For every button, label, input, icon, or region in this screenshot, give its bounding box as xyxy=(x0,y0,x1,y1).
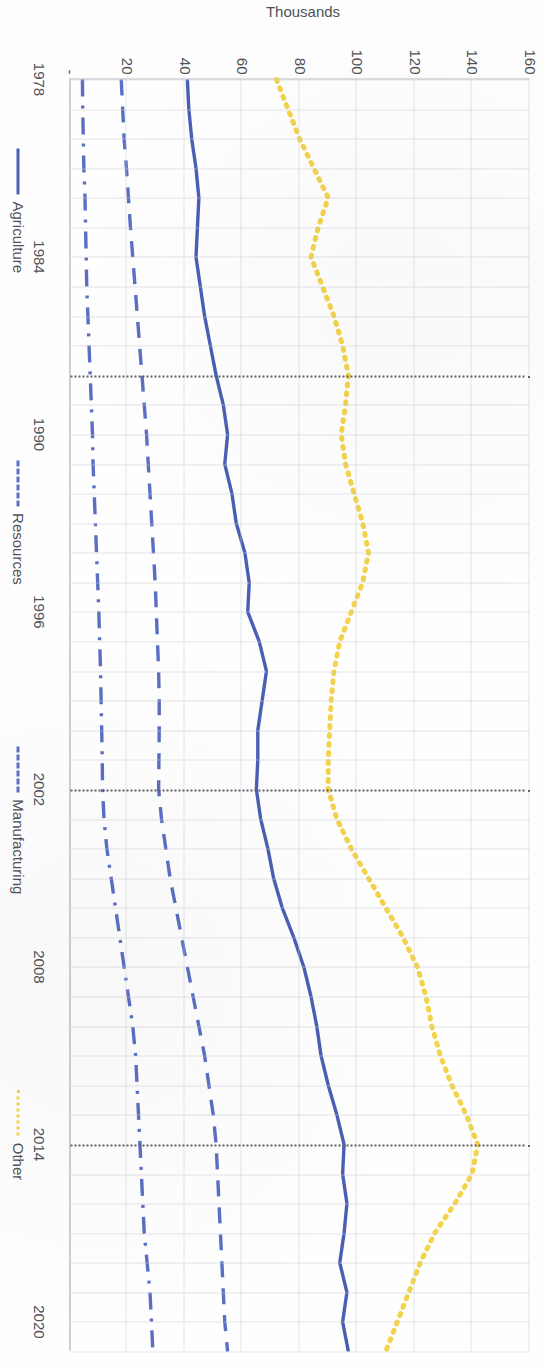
legend-item-resources[interactable]: Resources xyxy=(10,460,27,585)
x-axis-tick-label: 1984 xyxy=(30,234,47,278)
value-gridline xyxy=(126,79,127,1350)
year-gridline xyxy=(70,552,529,553)
series-line-other xyxy=(276,79,477,1351)
legend-item-label: Other xyxy=(10,1142,27,1180)
dashed-line-swatch xyxy=(17,746,20,792)
value-gridline xyxy=(413,79,414,1350)
value-gridline xyxy=(471,79,472,1350)
year-gridline-major xyxy=(70,1144,529,1146)
year-gridline xyxy=(70,1262,529,1263)
legend-item-label: Resources xyxy=(10,513,27,585)
value-gridline xyxy=(356,79,357,1350)
x-axis-tick-label: 1996 xyxy=(30,589,47,633)
series-line-manufacturing xyxy=(121,79,227,1351)
year-gridline xyxy=(70,996,529,997)
year-gridline xyxy=(70,345,529,346)
year-gridline xyxy=(70,316,529,317)
year-gridline xyxy=(70,1114,529,1115)
y-axis-tick-label: 20 xyxy=(119,14,136,74)
x-axis-tick-label: 2002 xyxy=(30,767,47,811)
year-gridline xyxy=(70,227,529,228)
year-gridline xyxy=(70,700,529,701)
year-gridline xyxy=(70,1233,529,1234)
year-gridline xyxy=(70,1174,529,1175)
x-axis-tick-label: 2008 xyxy=(30,944,47,988)
year-gridline xyxy=(70,582,529,583)
year-gridline xyxy=(70,907,529,908)
year-gridline xyxy=(70,1351,529,1352)
year-gridline xyxy=(70,1055,529,1056)
dashdot-line-swatch xyxy=(17,460,20,506)
year-gridline xyxy=(70,493,529,494)
series-line-resources xyxy=(82,79,152,1351)
year-gridline xyxy=(70,138,529,139)
y-axis-tick-label: 160 xyxy=(521,14,538,74)
y-axis-tick-label: 60 xyxy=(234,14,251,74)
year-gridline xyxy=(70,79,529,80)
y-axis-tick-label: 120 xyxy=(406,14,423,74)
solid-line-swatch xyxy=(17,148,20,194)
line-chart: Thousands -20406080100120140160197819841… xyxy=(0,0,543,1368)
rotated-chart-wrapper: Thousands -20406080100120140160197819841… xyxy=(0,0,543,1368)
legend-item-agriculture[interactable]: Agriculture xyxy=(10,148,27,273)
year-gridline xyxy=(70,878,529,879)
legend-item-label: Manufacturing xyxy=(10,799,27,894)
value-gridline xyxy=(241,79,242,1350)
year-gridline xyxy=(70,1026,529,1027)
x-axis-tick-label: 2020 xyxy=(30,1299,47,1343)
year-gridline xyxy=(70,464,529,465)
x-axis-tick-label: 1978 xyxy=(30,57,47,101)
value-gridline xyxy=(183,79,184,1350)
year-gridline xyxy=(70,197,529,198)
dotted-line-swatch xyxy=(17,1089,20,1135)
year-gridline xyxy=(70,1292,529,1293)
value-gridline xyxy=(528,79,529,1350)
chart-legend: AgricultureResourcesManufacturingOther xyxy=(5,78,31,1350)
year-gridline-major xyxy=(70,789,529,791)
y-axis-tick-label: - xyxy=(61,14,78,74)
year-gridline xyxy=(70,523,529,524)
year-gridline xyxy=(70,1085,529,1086)
year-gridline xyxy=(70,434,529,435)
year-gridline xyxy=(70,966,529,967)
year-gridline xyxy=(70,848,529,849)
y-axis-tick-label: 140 xyxy=(464,14,481,74)
year-gridline-major xyxy=(70,375,529,377)
scanned-chart-page: Thousands -20406080100120140160197819841… xyxy=(0,0,543,1368)
x-axis-tick-label: 1990 xyxy=(30,412,47,456)
value-gridline xyxy=(298,79,299,1350)
year-gridline xyxy=(70,404,529,405)
series-line-agriculture xyxy=(187,79,348,1351)
year-gridline xyxy=(70,641,529,642)
year-gridline xyxy=(70,671,529,672)
y-axis-tick-label: 100 xyxy=(349,14,366,74)
year-gridline xyxy=(70,168,529,169)
year-gridline xyxy=(70,759,529,760)
legend-item-label: Agriculture xyxy=(10,201,27,273)
year-gridline xyxy=(70,819,529,820)
year-gridline xyxy=(70,730,529,731)
year-gridline xyxy=(70,611,529,612)
year-gridline xyxy=(70,1203,529,1204)
y-axis-tick-label: 40 xyxy=(176,14,193,74)
plot-area: -204060801001201401601978198419901996200… xyxy=(69,78,529,1350)
x-axis-tick-label: 2014 xyxy=(30,1122,47,1166)
year-gridline xyxy=(70,937,529,938)
legend-item-other[interactable]: Other xyxy=(10,1089,27,1180)
year-gridline xyxy=(70,256,529,257)
legend-item-manufacturing[interactable]: Manufacturing xyxy=(10,746,27,894)
year-gridline xyxy=(70,1321,529,1322)
year-gridline xyxy=(70,286,529,287)
year-gridline xyxy=(70,109,529,110)
y-axis-tick-label: 80 xyxy=(291,14,308,74)
